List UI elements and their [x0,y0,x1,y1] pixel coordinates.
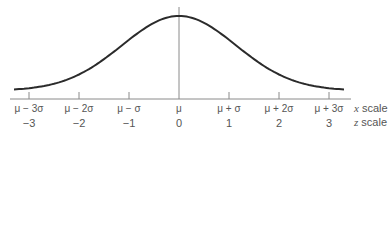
x-tick-label: μ − 2σ [65,103,94,115]
z-tick-label: −1 [123,117,136,129]
x-scale-text: scale [359,102,388,114]
x-tick-label: μ − 3σ [15,103,44,115]
x-tick-label: μ + 2σ [265,103,294,115]
x-tick-label: μ + 3σ [315,103,344,115]
x-tick-label: μ + σ [217,103,240,115]
z-scale-text: scale [358,116,387,128]
x-scale-label: x scale [354,102,388,114]
z-tick-label: 1 [226,117,232,129]
z-tick-label: 0 [176,117,182,129]
z-tick-label: 3 [326,117,332,129]
z-tick-label: −3 [23,117,36,129]
x-tick-label: μ − σ [117,103,140,115]
z-tick-label: 2 [276,117,282,129]
z-scale-label: z scale [354,116,387,128]
z-tick-label: −2 [73,117,86,129]
x-tick-label: μ [176,103,182,115]
